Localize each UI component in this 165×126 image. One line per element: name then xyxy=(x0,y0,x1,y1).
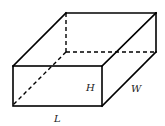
rectangular-prism-figure: H W L xyxy=(0,0,165,126)
top-left-depth-edge xyxy=(13,13,66,66)
width-label: W xyxy=(131,83,142,94)
bottom-right-depth-edge xyxy=(102,52,156,106)
length-label: L xyxy=(53,113,61,124)
top-right-depth-edge xyxy=(102,13,156,66)
height-label: H xyxy=(85,82,95,93)
prism-drawing: H W L xyxy=(0,0,165,126)
hidden-depth-edge xyxy=(13,52,66,105)
